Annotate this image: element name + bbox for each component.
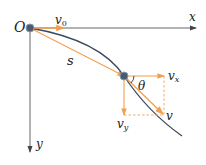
x-axis-label: x (189, 10, 196, 24)
v0-label: v0 (55, 13, 67, 28)
vx-label: vx (168, 69, 180, 84)
origin-label: O (14, 19, 26, 35)
displacement-label: s (67, 53, 74, 68)
displacement-line (30, 28, 124, 76)
v-label: v (166, 109, 173, 123)
theta-label: θ (138, 79, 146, 93)
y-axis-label: y (35, 137, 43, 151)
particle-point (120, 72, 128, 80)
origin-point (26, 24, 34, 32)
projectile-diagram: O x y v0 s θ vx vy v (0, 0, 206, 165)
trajectory-curve (30, 28, 182, 136)
theta-arc (131, 76, 134, 83)
vy-label: vy (117, 117, 129, 132)
